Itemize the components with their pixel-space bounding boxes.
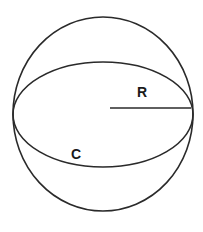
radius-label: R [137, 84, 147, 100]
sphere-diagram: R C [0, 0, 203, 232]
background [0, 0, 203, 232]
circumference-label: C [71, 146, 81, 162]
